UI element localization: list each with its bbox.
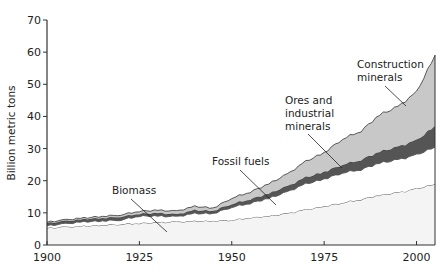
x-tick-label: 2000: [403, 251, 431, 264]
y-tick-label: 40: [27, 110, 41, 123]
annotation-ores-line3: minerals: [285, 120, 330, 132]
y-tick-label: 70: [27, 14, 41, 27]
y-tick-label: 30: [27, 143, 41, 156]
y-axis-title: Billion metric tons: [5, 85, 17, 180]
annotation-construction-line1: Construction: [357, 58, 424, 70]
y-tick-label: 10: [27, 207, 41, 220]
y-tick-label: 60: [27, 46, 41, 59]
y-tick-label: 50: [27, 78, 41, 91]
plot-areas: [47, 55, 435, 245]
annotation-biomass-label: Biomass: [112, 184, 156, 196]
annotation-fossil-label: Fossil fuels: [212, 155, 269, 167]
annotation-ores-line1: Ores and: [285, 94, 332, 106]
stacked-area-chart: 01020304050607019001925195019752000 Bill…: [0, 0, 448, 280]
annotation-construction-line2: minerals: [357, 71, 402, 83]
x-tick-label: 1950: [218, 251, 246, 264]
x-tick-label: 1900: [33, 251, 61, 264]
annotation-ores-line2: industrial: [285, 107, 334, 119]
y-tick-label: 20: [27, 175, 41, 188]
annotation-construction-leader: [385, 86, 406, 106]
x-tick-label: 1975: [310, 251, 338, 264]
x-tick-label: 1925: [125, 251, 153, 264]
